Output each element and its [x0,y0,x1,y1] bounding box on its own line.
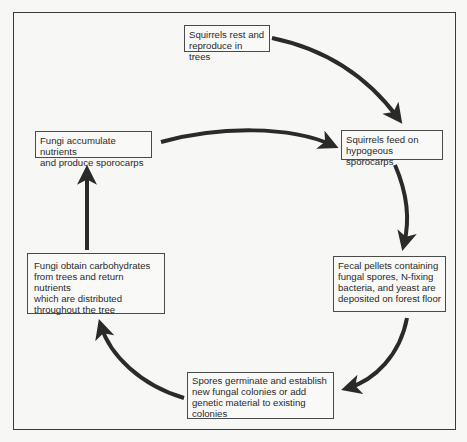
node-fungi-accumulate: Fungi accumulate nutrients and produce s… [35,131,152,158]
arrow-accumulate-to-feed [161,130,332,145]
arrow-spores-to-obtain [101,326,184,398]
node-squirrels-feed: Squirrels feed on hypogeous sporocarps [341,130,443,160]
node-squirrels-rest: Squirrels rest and reproduce in trees [184,25,270,52]
arrow-fecal-to-spores [348,318,407,388]
node-fungi-obtain: Fungi obtain carbohydrates from trees an… [27,253,165,314]
arrow-feed-to-fecal [395,165,407,244]
arrow-rest-to-feed [272,38,398,118]
node-fecal-pellets: Fecal pellets containing fungal spores, … [333,256,446,312]
node-spores-germinate: Spores germinate and establish new funga… [187,372,334,419]
